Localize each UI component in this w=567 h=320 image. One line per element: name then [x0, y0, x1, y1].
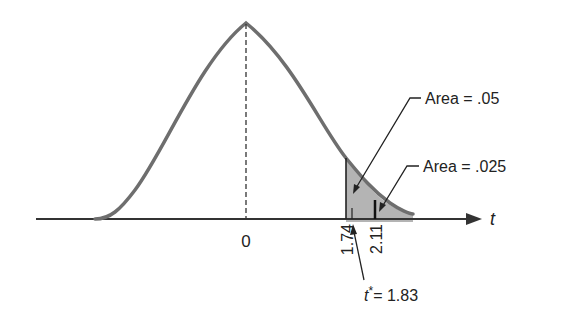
critical-label-2-11: 2.11 — [368, 224, 385, 254]
t-distribution-diagram: 0 1.74 2.11 t Area = .05 Area = .025 t*=… — [0, 0, 567, 320]
annotation-area-05: Area = .05 — [425, 90, 499, 107]
tstar-value: = 1.83 — [373, 287, 418, 304]
axis-arrow-icon — [466, 213, 482, 225]
axis-label-t: t — [490, 209, 496, 229]
annotation-tstar: t*= 1.83 — [364, 284, 418, 304]
leader-area-05 — [356, 98, 421, 188]
annotation-area-025: Area = .025 — [423, 158, 506, 175]
center-label: 0 — [241, 232, 250, 251]
critical-label-1-74: 1.74 — [339, 224, 356, 255]
